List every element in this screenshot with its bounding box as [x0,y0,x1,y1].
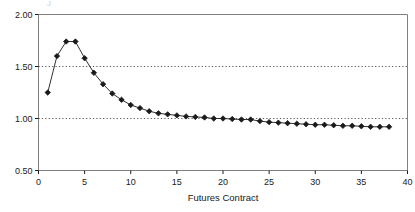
data-point-marker [322,122,327,127]
data-point-marker [257,118,262,123]
data-point-marker [285,120,290,125]
x-axis-title: Futures Contract [188,192,259,203]
data-point-marker [82,55,87,60]
xtick-label-6: 30 [310,177,320,187]
data-point-marker [349,123,354,128]
data-point-marker [313,122,318,127]
xtick-label-0: 0 [36,177,41,187]
data-point-marker [54,53,59,58]
xtick-label-7: 35 [356,177,366,187]
data-point-marker [202,115,207,120]
xtick-label-8: 40 [402,177,412,187]
data-point-marker [294,121,299,126]
data-point-marker [137,105,142,110]
data-point-marker [174,113,179,118]
data-point-marker [303,122,308,127]
data-point-marker [230,116,235,121]
ytick-label-0: 0.50 [15,166,33,176]
top-label-fragment: J [47,0,51,8]
xtick-label-5: 25 [264,177,274,187]
data-point-marker [45,90,50,95]
data-point-marker [165,112,170,117]
chart-figure: J0.501.001.502.000510152025303540Futures… [0,0,415,212]
data-point-marker [386,124,391,129]
data-point-marker [220,116,225,121]
xtick-label-1: 5 [82,177,87,187]
ytick-label-1: 1.00 [15,114,33,124]
futures-curve-chart: J0.501.001.502.000510152025303540Futures… [0,0,415,212]
data-point-marker [63,39,68,44]
data-point-marker [193,114,198,119]
data-point-marker [359,124,364,129]
series-line [48,42,389,127]
xtick-label-4: 20 [218,177,228,187]
data-point-marker [147,109,152,114]
data-point-marker [156,111,161,116]
data-point-marker [211,116,216,121]
data-point-marker [183,114,188,119]
data-point-marker [128,102,133,107]
ytick-label-2: 1.50 [15,62,33,72]
plot-frame [39,15,408,171]
data-point-marker [266,119,271,124]
data-point-marker [119,97,124,102]
ytick-label-3: 2.00 [15,10,33,20]
data-point-marker [248,117,253,122]
data-point-marker [368,124,373,129]
data-point-marker [73,39,78,44]
xtick-label-3: 15 [172,177,182,187]
data-point-marker [276,120,281,125]
data-point-marker [331,123,336,128]
xtick-label-2: 10 [126,177,136,187]
data-point-marker [340,123,345,128]
data-point-marker [239,117,244,122]
data-point-marker [377,124,382,129]
